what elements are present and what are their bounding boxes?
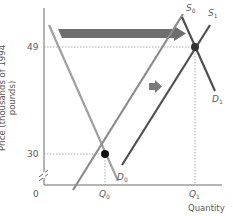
x-tick-q0: Q0 <box>99 190 110 200</box>
equilibrium-point-new <box>191 43 199 51</box>
y-tick-30: 30 <box>27 150 38 159</box>
chart-canvas <box>0 0 233 216</box>
demand-curve-d0 <box>49 25 118 181</box>
demand-curve-d1 <box>182 17 215 91</box>
x-tick-q1: Q1 <box>189 190 200 200</box>
supply-curve-s0 <box>73 14 183 190</box>
label-s1: S1 <box>208 9 218 19</box>
equilibrium-point-initial <box>101 150 109 158</box>
small-shift-arrow <box>149 80 162 93</box>
label-s0: S0 <box>186 4 196 14</box>
label-d0: D0 <box>117 173 128 183</box>
label-d1: D1 <box>212 95 223 105</box>
y-tick-49: 49 <box>27 43 38 52</box>
d0-main: D <box>117 172 124 182</box>
y-axis-label: Price (thousands of 1994 pounds) <box>0 33 17 163</box>
d0-sub: 0 <box>124 176 128 183</box>
supply-demand-diagram: Price (thousands of 1994 pounds) 49 30 0… <box>0 0 233 216</box>
s1-sub: 1 <box>214 12 218 19</box>
x-axis-label: Quantity <box>188 204 225 213</box>
s0-sub: 0 <box>192 7 196 14</box>
q0-sub: 0 <box>106 193 110 200</box>
d1-sub: 1 <box>219 98 223 105</box>
q1-sub: 1 <box>196 193 200 200</box>
origin-label: 0 <box>33 190 39 199</box>
d1-main: D <box>212 94 219 104</box>
